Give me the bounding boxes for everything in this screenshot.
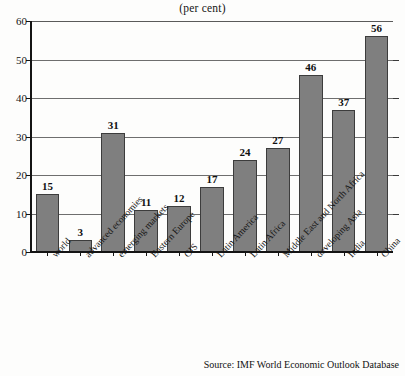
y-tick-right-50	[393, 60, 399, 61]
bar-value-label: 31	[108, 119, 119, 131]
bar-value-label: 3	[78, 226, 84, 238]
y-tick-right-20	[393, 175, 399, 176]
source-note: Source: IMF World Economic Outlook Datab…	[204, 359, 399, 370]
x-axis-labels-group: worldadvanced economiesemerging marketsE…	[31, 254, 405, 372]
bar-value-label: 27	[272, 134, 283, 146]
bar[interactable]	[200, 187, 224, 252]
y-tick-right-40	[393, 98, 399, 99]
plot-area: 0102030405060 153311112172427463756	[31, 21, 393, 252]
bar-value-label: 37	[338, 96, 349, 108]
y-axis-line	[30, 21, 32, 253]
bar-value-label: 17	[206, 173, 217, 185]
bars-layer: 153311112172427463756	[31, 21, 393, 252]
bar[interactable]	[365, 36, 389, 252]
bar-value-label: 24	[239, 146, 250, 158]
bar-value-label: 56	[371, 22, 382, 34]
chart-figure: (per cent) 0102030405060 153311112172427…	[0, 0, 405, 376]
chart-title: (per cent)	[0, 2, 405, 14]
bar-group[interactable]: 17	[200, 21, 224, 252]
bar-value-label: 12	[174, 192, 185, 204]
bar-group[interactable]: 15	[36, 21, 60, 252]
bar-value-label: 46	[305, 61, 316, 73]
y-tick-right-30	[393, 137, 399, 138]
bar-group[interactable]: 56	[365, 21, 389, 252]
bar-group[interactable]: 3	[69, 21, 93, 252]
y-tick-right-10	[393, 214, 399, 215]
bar-value-label: 15	[42, 180, 53, 192]
